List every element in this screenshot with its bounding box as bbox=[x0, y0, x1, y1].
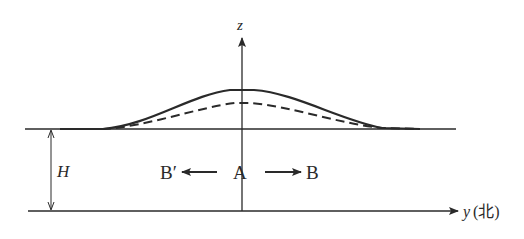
dashed-surface-profile bbox=[60, 103, 420, 129]
depth-label: H bbox=[56, 162, 71, 181]
y-axis-direction-note: (北) bbox=[473, 203, 500, 221]
surface-elevation-diagram: z H B′ A B y (北) bbox=[0, 0, 524, 239]
y-axis-label: y bbox=[461, 203, 471, 221]
point-a-label: A bbox=[233, 162, 247, 183]
point-b-label: B bbox=[306, 162, 319, 183]
solid-surface-profile bbox=[60, 90, 420, 129]
z-axis-label: z bbox=[236, 17, 243, 33]
point-b-prime-label: B′ bbox=[160, 162, 177, 183]
